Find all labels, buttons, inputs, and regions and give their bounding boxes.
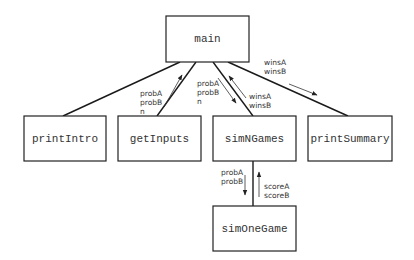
node-printSummary: printSummary (308, 116, 392, 161)
flow-label: probB (221, 177, 243, 186)
node-label: simNGames (225, 133, 284, 145)
node-label: printSummary (310, 133, 390, 145)
structure-chart: probA probB n probA probB n winsA winsB … (0, 0, 414, 260)
flow-label: winsB (249, 101, 271, 110)
node-simNGames: simNGames (213, 116, 296, 161)
flow-label: scoreB (264, 191, 289, 200)
flow-label: winsA (249, 92, 272, 101)
node-main: main (166, 16, 249, 62)
node-label: getInputs (130, 133, 189, 145)
flow-label: winsA (264, 58, 287, 67)
flow-label: n (197, 97, 202, 106)
flow-label: probA (197, 79, 220, 88)
flow-label: probA (140, 89, 163, 98)
flow-label: probA (221, 168, 244, 177)
flow-label: scoreA (264, 182, 290, 191)
flow-label: n (140, 107, 145, 116)
node-printIntro: printIntro (24, 116, 106, 161)
node-simOneGame: simOneGame (213, 206, 296, 251)
edge-main-printSummary (228, 62, 348, 116)
flow-label: probB (140, 98, 162, 107)
flow-label: winsB (264, 67, 286, 76)
node-label: main (194, 33, 220, 45)
node-getInputs: getInputs (118, 116, 201, 161)
node-label: simOneGame (221, 223, 287, 235)
arrow-right-icon (289, 84, 317, 95)
arrow-up-icon (164, 75, 182, 107)
node-label: printIntro (32, 133, 98, 145)
flow-label: probB (197, 88, 219, 97)
